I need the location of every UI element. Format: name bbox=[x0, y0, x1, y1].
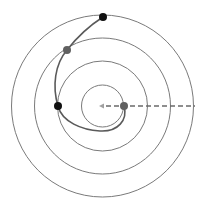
point-3 bbox=[63, 46, 71, 54]
point-4 bbox=[99, 13, 107, 21]
orbit-diagram bbox=[0, 0, 203, 204]
arrow-icon bbox=[99, 104, 104, 109]
point-1 bbox=[120, 102, 128, 110]
spiral-path bbox=[55, 17, 125, 131]
point-2 bbox=[54, 102, 62, 110]
